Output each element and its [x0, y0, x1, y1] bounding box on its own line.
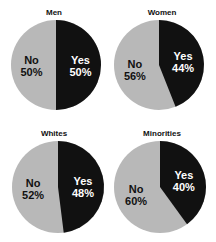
pie-panel-men: Men Yes50%No50% — [0, 0, 108, 121]
label-yes-percent: 48% — [72, 187, 94, 199]
label-no: No — [128, 58, 143, 70]
label-yes: Yes — [73, 175, 92, 187]
label-no-percent: 50% — [20, 66, 42, 78]
pie-chart: Yes48%No52% — [0, 121, 108, 242]
label-no-percent: 60% — [125, 195, 147, 207]
pie-chart: Yes40%No60% — [108, 121, 216, 242]
label-yes: Yes — [174, 169, 193, 181]
label-yes-percent: 40% — [173, 181, 195, 193]
label-no-percent: 52% — [22, 189, 44, 201]
label-yes-percent: 50% — [69, 66, 91, 78]
label-no: No — [129, 183, 144, 195]
label-no: No — [24, 54, 39, 66]
label-yes: Yes — [71, 54, 90, 66]
label-yes-percent: 44% — [172, 62, 194, 74]
pie-panel-women: Women Yes44%No56% — [108, 0, 216, 121]
label-yes: Yes — [174, 50, 193, 62]
pie-panel-minorities: Minorities Yes40%No60% — [108, 121, 216, 242]
pie-panel-whites: Whites Yes48%No52% — [0, 121, 108, 242]
pie-chart: Yes50%No50% — [0, 0, 108, 121]
label-no-percent: 56% — [124, 70, 146, 82]
pie-chart: Yes44%No56% — [108, 0, 216, 121]
label-no: No — [26, 177, 41, 189]
